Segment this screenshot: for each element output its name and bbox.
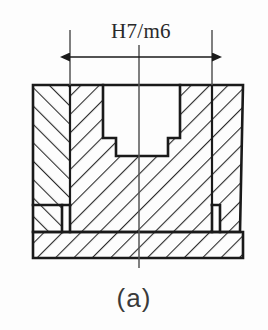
section-hatching xyxy=(25,78,255,264)
dimension-label: H7/m6 xyxy=(111,19,171,43)
cross-section-drawing: H7/m6 (a) xyxy=(0,0,268,330)
hatch-insert xyxy=(65,78,220,243)
figure-caption: (a) xyxy=(117,283,152,313)
technical-drawing-figure: H7/m6 (a) xyxy=(0,0,268,330)
dimension-H7m6: H7/m6 xyxy=(70,19,212,57)
